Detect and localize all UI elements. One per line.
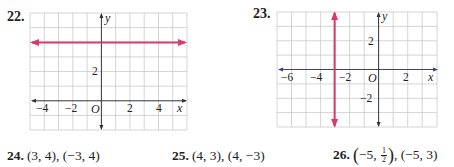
y-axis-label-23: y (382, 9, 387, 24)
problem-26-x1: −5, (359, 147, 380, 162)
problem-25-points: (4, 3), (4, −3) (192, 148, 265, 163)
problem-26-rest: , (−5, 3) (394, 147, 438, 162)
problem-24: 24.(3, 4), (−3, 4) (7, 148, 100, 164)
x-axis-label-23: x (428, 70, 433, 85)
origin-label-23: O (368, 71, 377, 86)
problem-24-points: (3, 4), (−3, 4) (27, 148, 100, 163)
x-tick-23-neg6: −6 (281, 71, 293, 83)
problem-number-25: 25. (172, 148, 189, 163)
x-tick-23-2: 2 (403, 71, 409, 83)
problem-26: 26.(−5, 12), (−5, 3) (333, 145, 438, 166)
x-tick-23-neg4: −4 (310, 71, 322, 83)
y-tick-23-neg2: −2 (360, 92, 372, 104)
y-tick-23-2: 2 (368, 35, 374, 47)
fraction-denominator: 2 (381, 156, 387, 164)
problem-25: 25.(4, 3), (4, −3) (172, 148, 265, 164)
problem-number-24: 24. (7, 148, 24, 163)
fraction-one-half: 12 (381, 147, 387, 164)
x-tick-23-neg2: −2 (339, 71, 351, 83)
problem-number-26: 26. (333, 147, 350, 162)
graph-23 (0, 0, 454, 167)
